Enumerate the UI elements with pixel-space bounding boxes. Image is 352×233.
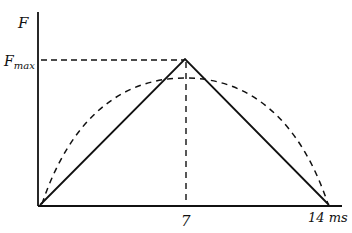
y-axis-label: F: [17, 14, 29, 32]
x-tick-7: 7: [181, 212, 191, 230]
force-time-diagram: F Fmax 7 14 ms: [0, 0, 352, 233]
fmax-label-subscript: max: [14, 60, 35, 71]
x-tick-14ms: 14 ms: [308, 210, 348, 225]
triangular-pulse-curve: [40, 59, 329, 205]
half-sine-pulse-curve: [42, 78, 328, 204]
fmax-label: Fmax: [3, 53, 35, 71]
